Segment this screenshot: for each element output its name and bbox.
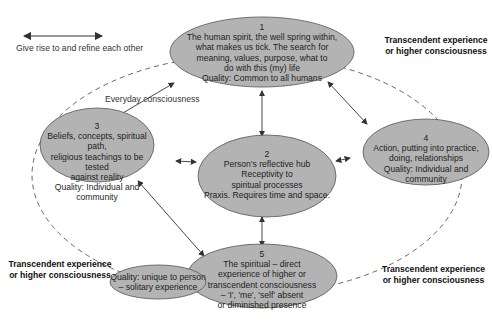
side-node-text: Quality: unique to person – solitary exp… xyxy=(110,272,206,292)
node-number: 2 xyxy=(198,149,336,159)
node-line: or diminished presence xyxy=(187,300,337,310)
node-4-text: 4 Action, putting into practice, doing, … xyxy=(363,133,489,184)
arrow-3-2 xyxy=(176,161,196,162)
label-line: Transcendent experience xyxy=(380,35,492,46)
node-3-text: 3 Beliefs, concepts, spiritual path, rel… xyxy=(40,121,154,203)
label-line: Transcendent experience xyxy=(0,259,120,270)
arrow-2-4 xyxy=(336,158,350,161)
node-line: – solitary experience xyxy=(110,282,206,292)
node-line: doing, relationships xyxy=(363,153,489,163)
node-line: Quality: Individual and community xyxy=(363,164,489,184)
label-line: Transcendent experience xyxy=(375,264,492,275)
everyday-consciousness-label: Everyday consciousness xyxy=(105,94,200,104)
node-number: 5 xyxy=(187,249,337,259)
legend-label: Give rise to and refine each other xyxy=(16,43,143,53)
node-line: transcendent consciousness xyxy=(187,280,337,290)
node-line: Quality: Common to all humans xyxy=(170,73,354,83)
node-line: Person's reflective hub xyxy=(198,159,336,169)
node-line: The spiritual – direct xyxy=(187,259,337,269)
node-line: Quality: Individual and community xyxy=(40,182,154,202)
transcendent-label-bottom-right: Transcendent experience or higher consci… xyxy=(375,264,492,286)
node-line: Action, putting into practice, xyxy=(363,143,489,153)
node-line: against reality xyxy=(40,172,154,182)
node-line: meaning, values, purpose, what to xyxy=(170,53,354,63)
node-line: do with this (my) life xyxy=(170,63,354,73)
node-line: – 'I', 'me', 'self' absent xyxy=(187,290,337,300)
node-1-text: 1 The human spirit, the well spring with… xyxy=(170,22,354,83)
node-number: 1 xyxy=(170,22,354,32)
node-line: spiritual processes xyxy=(198,180,336,190)
node-line: what makes us tick. The search for xyxy=(170,42,354,52)
node-number: 4 xyxy=(363,133,489,143)
node-5-text: 5 The spiritual – direct experience of h… xyxy=(187,249,337,310)
node-line: experience of higher or xyxy=(187,269,337,279)
node-2-text: 2 Person's reflective hub Receptivity to… xyxy=(198,149,336,200)
node-line: Praxis. Requires time and space. xyxy=(198,190,336,200)
node-line: The human spirit, the well spring within… xyxy=(170,32,354,42)
transcendent-label-bottom-left: Transcendent experience or higher consci… xyxy=(0,259,120,281)
node-number: 3 xyxy=(40,121,154,131)
label-line: or higher consciousness xyxy=(375,275,492,286)
node-line: Beliefs, concepts, spiritual path, xyxy=(40,131,154,151)
node-line: Receptivity to xyxy=(198,169,336,179)
node-line: Quality: unique to person xyxy=(110,272,206,282)
label-line: or higher consciousness xyxy=(0,270,120,281)
node-line: religious teachings to be tested xyxy=(40,152,154,172)
label-line: or higher consciousness xyxy=(380,46,492,57)
transcendent-label-top-right: Transcendent experience or higher consci… xyxy=(380,35,492,57)
arrow-1-4 xyxy=(328,82,367,124)
